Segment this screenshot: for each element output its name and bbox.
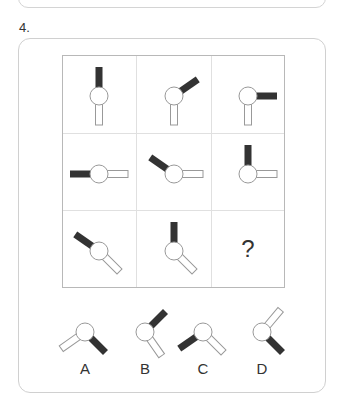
question-number: 4. — [19, 20, 30, 35]
previous-question-card — [18, 0, 326, 8]
grid-divider-vertical — [136, 56, 137, 287]
hub-circle — [165, 165, 183, 183]
dark-arm — [255, 92, 277, 99]
hub-circle — [90, 242, 108, 260]
missing-cell-question-mark: ? — [211, 235, 285, 263]
light-arm — [170, 103, 177, 125]
grid-figure-r2c1 — [69, 144, 129, 204]
dark-arm — [70, 170, 92, 177]
grid-figure-r1c2 — [144, 66, 204, 126]
light-arm — [244, 103, 251, 125]
option-label-c[interactable]: C — [188, 360, 218, 377]
light-arm — [96, 103, 103, 125]
grid-figure-r2c2 — [144, 144, 204, 204]
hub-circle — [90, 165, 108, 183]
hub-circle — [253, 323, 271, 341]
hub-circle — [76, 323, 94, 341]
light-arm — [255, 170, 277, 177]
option-figure-d[interactable] — [232, 302, 292, 362]
dark-arm — [96, 67, 103, 89]
option-figure-a[interactable] — [55, 302, 115, 362]
option-label-d[interactable]: D — [247, 360, 277, 377]
grid-figure-r1c3 — [218, 66, 278, 126]
grid-divider-horizontal — [63, 133, 284, 134]
grid-figure-r3c1 — [69, 221, 129, 281]
hub-circle — [90, 87, 108, 105]
option-label-a[interactable]: A — [70, 360, 100, 377]
option-label-b[interactable]: B — [130, 360, 160, 377]
hub-circle — [165, 242, 183, 260]
hub-circle — [165, 87, 183, 105]
dark-arm — [244, 145, 251, 167]
grid-figure-r2c3 — [218, 144, 278, 204]
light-arm — [106, 170, 128, 177]
option-figure-c[interactable] — [173, 302, 233, 362]
hub-circle — [194, 323, 212, 341]
hub-circle — [239, 165, 257, 183]
hub-circle — [136, 323, 154, 341]
grid-divider-horizontal — [63, 210, 284, 211]
dark-arm — [170, 222, 177, 244]
light-arm — [181, 170, 203, 177]
hub-circle — [239, 87, 257, 105]
option-figure-b[interactable] — [115, 302, 175, 362]
grid-figure-r3c2 — [144, 221, 204, 281]
grid-figure-r1c1 — [69, 66, 129, 126]
